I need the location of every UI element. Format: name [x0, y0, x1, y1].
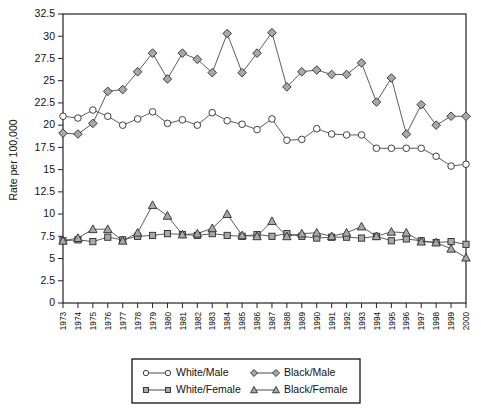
y-axis-title: Rate per 100,000 — [7, 119, 19, 200]
data-point — [313, 228, 321, 236]
y-tick-label: 7.5 — [40, 230, 55, 242]
data-point — [462, 112, 471, 121]
x-tick-label: 1980 — [164, 312, 173, 331]
series-white-male — [60, 107, 470, 170]
data-point — [104, 113, 111, 120]
data-point — [342, 228, 350, 236]
data-point — [59, 129, 68, 138]
data-point — [462, 253, 470, 261]
y-tick-label: 2.5 — [40, 274, 55, 286]
y-tick-label: 0 — [49, 296, 55, 308]
data-point — [149, 232, 155, 238]
data-point — [179, 117, 186, 124]
legend-marker — [165, 370, 170, 375]
data-point — [105, 234, 111, 240]
y-tick-label: 12.5 — [35, 185, 56, 197]
x-tick-label: 1975 — [89, 312, 98, 331]
data-point — [134, 116, 141, 123]
data-point — [268, 217, 276, 225]
series-black-female — [59, 201, 470, 261]
data-point — [447, 244, 455, 252]
data-point — [418, 145, 425, 152]
legend-label: Black/Female — [284, 383, 348, 395]
x-tick-label: 1991 — [328, 312, 337, 331]
data-point — [89, 119, 98, 128]
y-tick-label: 17.5 — [35, 141, 56, 153]
data-point — [239, 121, 246, 128]
data-point — [90, 239, 96, 245]
data-point — [269, 116, 276, 123]
data-point — [103, 87, 112, 96]
data-point — [224, 232, 230, 238]
data-point — [209, 109, 216, 116]
x-tick-label: 1973 — [59, 312, 68, 331]
x-axis: 1973197419751976197719781979198019811982… — [59, 303, 471, 330]
data-point — [313, 125, 320, 132]
x-tick-label: 1995 — [388, 312, 397, 331]
data-point — [342, 70, 351, 79]
data-point — [75, 115, 82, 122]
y-tick-label: 25 — [43, 74, 55, 86]
data-point — [163, 75, 172, 84]
data-point — [357, 222, 365, 230]
y-axis: 02.557.51012.51517.52022.52527.53032.5 — [35, 7, 63, 308]
x-tick-label: 1996 — [402, 312, 411, 331]
data-point — [148, 49, 157, 58]
x-tick-label: 1993 — [358, 312, 367, 331]
data-point — [90, 107, 97, 114]
data-point — [463, 161, 470, 168]
x-tick-label: 1985 — [238, 312, 247, 331]
data-point — [432, 121, 441, 130]
data-point — [387, 228, 395, 236]
data-point — [343, 132, 350, 139]
x-tick-label: 1994 — [373, 312, 382, 331]
data-point — [163, 212, 171, 220]
y-tick-label: 20 — [43, 118, 55, 130]
legend-marker — [165, 387, 170, 392]
plot-frame — [63, 14, 466, 303]
x-tick-label: 1988 — [283, 312, 292, 331]
data-point — [358, 235, 364, 241]
data-point — [238, 68, 247, 77]
data-point — [327, 70, 336, 79]
data-point — [388, 145, 395, 152]
x-tick-label: 1983 — [208, 312, 217, 331]
x-tick-label: 1987 — [268, 312, 277, 331]
x-tick-label: 1999 — [447, 312, 456, 331]
data-point — [60, 113, 67, 120]
data-point — [269, 233, 275, 239]
data-point — [312, 66, 321, 75]
data-point — [358, 132, 365, 139]
data-point — [224, 117, 231, 124]
legend-label: White/Male — [176, 366, 229, 378]
data-point — [74, 130, 83, 139]
series-black-male — [59, 28, 471, 138]
y-tick-label: 10 — [43, 207, 55, 219]
data-point — [357, 59, 366, 68]
y-tick-label: 27.5 — [35, 52, 56, 64]
plot-border — [63, 14, 466, 303]
series-group — [59, 28, 471, 261]
data-point — [388, 238, 394, 244]
data-point — [299, 136, 306, 143]
x-tick-label: 1976 — [104, 312, 113, 331]
x-tick-label: 1997 — [417, 312, 426, 331]
y-tick-label: 22.5 — [35, 96, 56, 108]
legend-label: Black/Male — [284, 366, 336, 378]
data-point — [448, 163, 455, 170]
data-point — [373, 145, 380, 152]
chart-container: 02.557.51012.51517.52022.52527.53032.5 1… — [0, 0, 481, 412]
x-tick-label: 1990 — [313, 312, 322, 331]
y-tick-label: 15 — [43, 163, 55, 175]
data-point — [433, 153, 440, 160]
data-point — [463, 241, 469, 247]
data-point — [164, 120, 171, 127]
line-chart: 02.557.51012.51517.52022.52527.53032.5 1… — [0, 0, 481, 412]
data-point — [178, 49, 187, 58]
data-point — [328, 131, 335, 138]
x-tick-label: 1986 — [253, 312, 262, 331]
x-tick-label: 1977 — [119, 312, 128, 331]
x-tick-label: 1978 — [134, 312, 143, 331]
x-tick-label: 1981 — [179, 312, 188, 331]
data-point — [119, 122, 126, 129]
